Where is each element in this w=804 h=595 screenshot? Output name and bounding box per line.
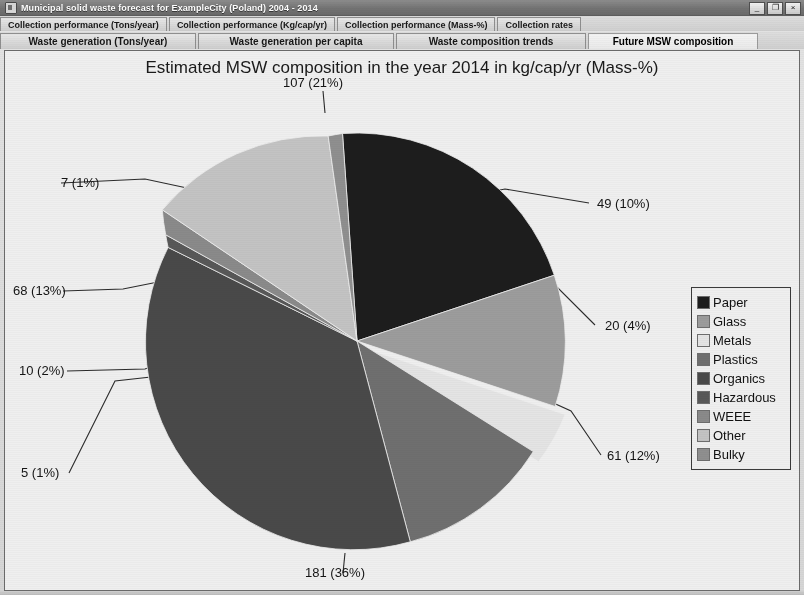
legend-label-organics: Organics — [713, 371, 765, 386]
legend-swatch-weee-icon — [697, 410, 710, 423]
tab-row-secondary: Waste generation (Tons/year) Waste gener… — [0, 32, 804, 49]
minimize-button[interactable]: _ — [749, 2, 765, 15]
data-label-glass: 49 (10%) — [597, 196, 650, 211]
tab-waste-generation-per-capita[interactable]: Waste generation per capita — [198, 33, 394, 49]
legend-swatch-organics-icon — [697, 372, 710, 385]
legend-label-metals: Metals — [713, 333, 751, 348]
legend-swatch-metals-icon — [697, 334, 710, 347]
legend-item-other[interactable]: Other — [697, 426, 786, 445]
legend-label-weee: WEEE — [713, 409, 751, 424]
legend-item-metals[interactable]: Metals — [697, 331, 786, 350]
tab-row-filler-2 — [760, 48, 804, 49]
data-label-plastics: 61 (12%) — [607, 448, 660, 463]
tab-waste-composition-trends[interactable]: Waste composition trends — [396, 33, 586, 49]
application-window: Municipal solid waste forecast for Examp… — [0, 0, 804, 595]
tab-waste-generation-tons-year[interactable]: Waste generation (Tons/year) — [0, 33, 196, 49]
legend-item-plastics[interactable]: Plastics — [697, 350, 786, 369]
legend-item-weee[interactable]: WEEE — [697, 407, 786, 426]
chart-legend: Paper Glass Metals Plastics Organics Haz… — [691, 287, 791, 470]
legend-label-paper: Paper — [713, 295, 748, 310]
window-controls: _ ❐ × — [749, 2, 801, 15]
pie-chart — [5, 51, 799, 590]
legend-swatch-hazardous-icon — [697, 391, 710, 404]
tab-collection-performance-mass-pct[interactable]: Collection performance (Mass-%) — [337, 17, 496, 31]
tab-future-msw-composition[interactable]: Future MSW composition — [588, 33, 758, 49]
legend-swatch-paper-icon — [697, 296, 710, 309]
data-label-hazardous: 5 (1%) — [21, 465, 59, 480]
legend-item-hazardous[interactable]: Hazardous — [697, 388, 786, 407]
window-title: Municipal solid waste forecast for Examp… — [21, 3, 318, 13]
legend-swatch-plastics-icon — [697, 353, 710, 366]
tab-row-primary: Collection performance (Tons/year) Colle… — [0, 16, 804, 31]
legend-label-bulky: Bulky — [713, 447, 745, 462]
legend-label-other: Other — [713, 428, 746, 443]
maximize-button[interactable]: ❐ — [767, 2, 783, 15]
title-bar: Municipal solid waste forecast for Examp… — [0, 0, 804, 16]
legend-swatch-other-icon — [697, 429, 710, 442]
data-label-paper: 107 (21%) — [283, 75, 343, 90]
legend-label-glass: Glass — [713, 314, 746, 329]
leader-line-paper — [323, 91, 325, 113]
legend-item-bulky[interactable]: Bulky — [697, 445, 786, 464]
data-label-weee: 10 (2%) — [19, 363, 65, 378]
data-label-metals: 20 (4%) — [605, 318, 651, 333]
legend-item-glass[interactable]: Glass — [697, 312, 786, 331]
tab-collection-performance-kg-cap-yr[interactable]: Collection performance (Kg/cap/yr) — [169, 17, 335, 31]
legend-swatch-bulky-icon — [697, 448, 710, 461]
app-icon — [5, 2, 17, 14]
legend-item-paper[interactable]: Paper — [697, 293, 786, 312]
data-label-organics: 181 (36%) — [305, 565, 365, 580]
legend-item-organics[interactable]: Organics — [697, 369, 786, 388]
tab-row-filler — [583, 30, 804, 31]
legend-label-plastics: Plastics — [713, 352, 758, 367]
legend-label-hazardous: Hazardous — [713, 390, 776, 405]
status-bar — [0, 591, 804, 595]
chart-panel: Estimated MSW composition in the year 20… — [4, 50, 800, 591]
tab-collection-rates[interactable]: Collection rates — [497, 17, 581, 31]
data-label-bulky: 7 (1%) — [61, 175, 99, 190]
close-button[interactable]: × — [785, 2, 801, 15]
data-label-other: 68 (13%) — [13, 283, 66, 298]
legend-swatch-glass-icon — [697, 315, 710, 328]
tab-collection-performance-tons-year[interactable]: Collection performance (Tons/year) — [0, 17, 167, 31]
pie-slices — [145, 133, 565, 550]
